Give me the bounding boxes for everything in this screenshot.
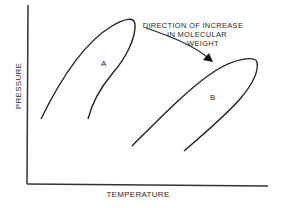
curve-b-label: B [210,93,216,102]
curve-a-envelope [41,19,135,119]
annotation-line-2: IN MOLECULAR [167,30,227,39]
annotation-line-1: DIRECTION OF INCREASE [143,21,243,30]
x-axis [27,184,268,186]
direction-arrow-head-icon [203,53,213,62]
x-axis-label: TEMPERATURE [106,190,169,199]
y-axis [27,5,28,184]
curve-a-label: A [101,59,107,68]
y-axis-label: PRESSURE [14,63,23,109]
curve-b-envelope [132,59,257,151]
phase-envelope-diagram: PRESSURE TEMPERATURE A B DIRECTION OF IN… [0,0,281,208]
